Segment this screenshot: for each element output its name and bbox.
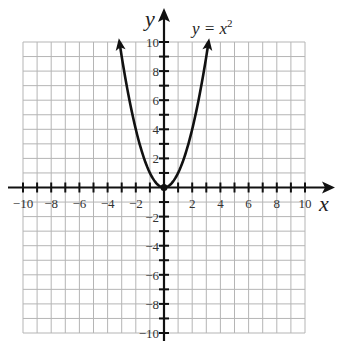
y-tick-label: −6 [145, 268, 159, 283]
y-tick-label: −10 [139, 326, 159, 341]
y-tick-label: 2 [153, 151, 160, 166]
y-axis-label: y [143, 6, 155, 31]
x-tick-label: −6 [72, 196, 86, 211]
y-tick-label: 4 [153, 122, 160, 137]
x-tick-label: −8 [44, 196, 58, 211]
y-tick-label: 8 [153, 64, 160, 79]
x-tick-label: −4 [101, 196, 115, 211]
x-tick-label: 10 [299, 196, 312, 211]
curve-label: y = x2 [190, 17, 233, 38]
x-tick-label: −2 [129, 196, 143, 211]
y-tick-label: −2 [145, 210, 159, 225]
x-tick-label: 2 [189, 196, 196, 211]
x-tick-label: 8 [274, 196, 281, 211]
parabola-chart: −10−8−6−4−2246810108642−2−4−6−8−10 y x y… [0, 0, 342, 349]
x-axis-label: x [318, 191, 329, 216]
x-tick-label: −10 [13, 196, 33, 211]
x-tick-label: 4 [217, 196, 224, 211]
y-tick-label: 10 [146, 35, 159, 50]
y-tick-label: 6 [153, 93, 160, 108]
axes [8, 8, 335, 341]
y-tick-label: −8 [145, 297, 159, 312]
x-tick-label: 6 [245, 196, 252, 211]
vertex-point [161, 184, 168, 191]
y-tick-label: −4 [145, 239, 159, 254]
